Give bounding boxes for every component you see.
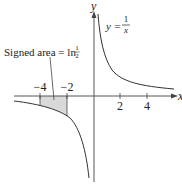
tick-label-4: 4 bbox=[144, 99, 150, 113]
graph-canvas: −4 −2 2 4 x y y = 1 x Signed area = ln 1… bbox=[0, 0, 182, 185]
annotation-text: Signed area = ln bbox=[4, 46, 76, 58]
function-label-denominator: x bbox=[123, 25, 128, 35]
function-label-numerator: 1 bbox=[124, 14, 129, 24]
tick-label-2: 2 bbox=[117, 99, 123, 113]
x-axis-label: x bbox=[177, 89, 182, 103]
x-axis-arrow-icon bbox=[171, 94, 178, 99]
annotation-leader-line bbox=[50, 57, 54, 100]
tick-label-neg2: −2 bbox=[61, 80, 74, 94]
y-axis-label: y bbox=[90, 0, 97, 13]
function-label-lhs: y = bbox=[105, 20, 121, 32]
annotation-fraction-num: 1 bbox=[75, 44, 79, 52]
annotation-fraction-den: 2 bbox=[75, 52, 79, 60]
curve-negative-branch bbox=[14, 101, 89, 178]
tick-label-neg4: −4 bbox=[34, 80, 47, 94]
